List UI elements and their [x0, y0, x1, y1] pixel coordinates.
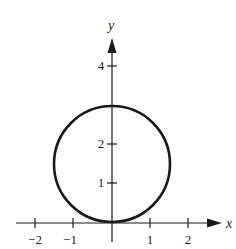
x-tick-label: −2 — [28, 232, 42, 247]
y-axis-arrow-icon — [108, 38, 117, 53]
x-axis-arrow-icon — [207, 219, 222, 228]
x-tick-label: −1 — [63, 232, 77, 247]
y-axis-label: y — [106, 18, 115, 33]
x-tick-label: 2 — [185, 232, 192, 247]
x-axis-label: x — [225, 216, 233, 231]
y-tick-label: 1 — [98, 175, 105, 190]
y-tick-label: 4 — [98, 58, 105, 73]
circle-graph: x y −2 −1 1 2 4 2 1 — [0, 0, 236, 249]
x-tick-label: 1 — [147, 232, 154, 247]
y-tick-label: 2 — [98, 136, 105, 151]
